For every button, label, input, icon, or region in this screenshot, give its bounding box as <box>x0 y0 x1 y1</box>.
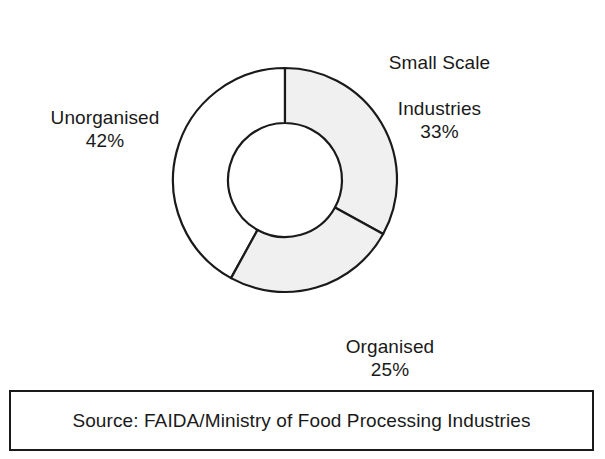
slice-label-organised-line1: Organised <box>346 336 435 357</box>
slice-value-unorganised: 42% <box>20 129 190 152</box>
slice-label-small-scale-industries: Small Scale Industries 33% <box>352 28 527 166</box>
slice-value-organised: 25% <box>300 358 480 381</box>
figure-canvas: Small Scale Industries 33% Unorganised 4… <box>0 0 605 459</box>
source-box: Source: FAIDA/Ministry of Food Processin… <box>9 390 594 451</box>
slice-label-small-scale-line2: Industries <box>398 98 481 119</box>
slice-label-unorganised: Unorganised 42% <box>20 83 190 175</box>
slice-value-small-scale: 33% <box>352 120 527 143</box>
source-text: Source: FAIDA/Ministry of Food Processin… <box>72 410 530 432</box>
slice-label-unorganised-line1: Unorganised <box>51 107 160 128</box>
slice-label-small-scale-line1: Small Scale <box>389 52 490 73</box>
